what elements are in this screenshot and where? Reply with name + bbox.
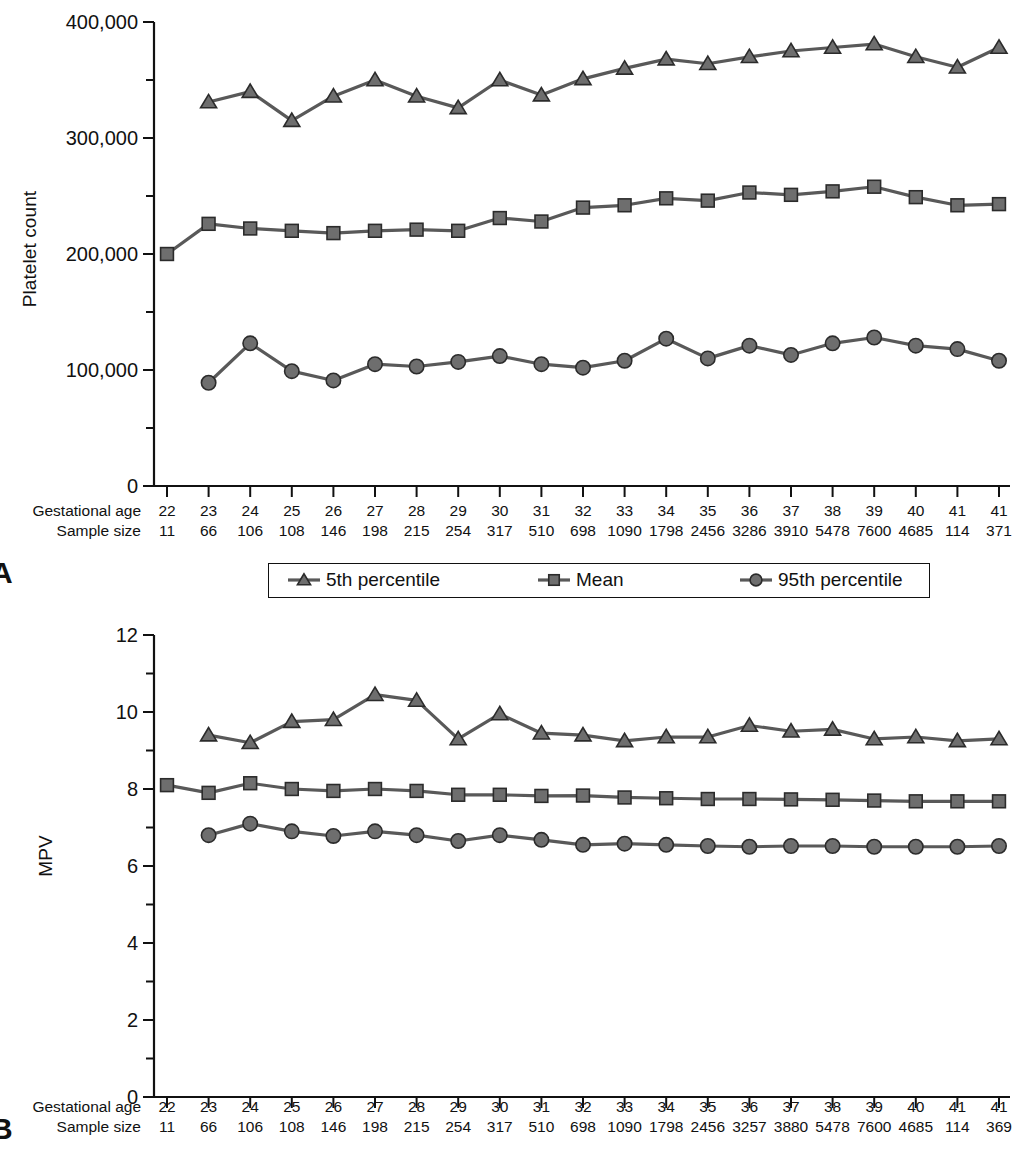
x-axis-cell-sample-size: 108 (279, 522, 305, 540)
x-axis-cell-sample-size: 1090 (607, 522, 641, 540)
data-point-circle (576, 360, 590, 374)
data-point-circle (201, 376, 215, 390)
data-point-circle (867, 840, 881, 854)
data-point-circle (409, 359, 423, 373)
data-point-square (743, 793, 756, 806)
x-axis-cell-sample-size: 5478 (815, 1118, 849, 1136)
data-point-square (285, 224, 298, 237)
panel-a-x-axis-table: Gestational age2223242526272829303132333… (0, 502, 1011, 542)
x-axis-cell-gestational-age: 35 (699, 1098, 716, 1116)
x-axis-cell-sample-size: 5478 (815, 522, 849, 540)
x-axis-cell-gestational-age: 31 (533, 1098, 550, 1116)
data-point-square (660, 192, 673, 205)
x-axis-cell-gestational-age: 41 (949, 1098, 966, 1116)
data-point-circle (750, 574, 762, 586)
data-point-square (493, 788, 506, 801)
panel-b-plot: 024681012 (0, 600, 1011, 1100)
y-tick-label: 10 (116, 701, 138, 723)
data-point-square (701, 194, 714, 207)
data-point-square (618, 199, 631, 212)
data-point-circle (659, 838, 673, 852)
data-point-square (327, 785, 340, 798)
x-axis-cell-gestational-age: 41 (990, 1098, 1007, 1116)
x-axis-row-sample-size: Sample size11661061081461982152543175106… (0, 522, 1011, 542)
data-point-triangle (741, 718, 757, 731)
series-line-square (167, 187, 999, 254)
y-tick-label: 4 (127, 932, 138, 954)
data-point-square (951, 199, 964, 212)
x-axis-cell-gestational-age: 29 (450, 1098, 467, 1116)
x-axis-cell-gestational-age: 30 (491, 1098, 508, 1116)
data-point-square (285, 783, 298, 796)
legend-label: 5th percentile (326, 569, 440, 591)
legend-label: 95th percentile (778, 569, 903, 591)
data-point-triangle (991, 40, 1007, 53)
x-axis-cell-sample-size: 106 (237, 1118, 263, 1136)
data-point-square (826, 793, 839, 806)
data-point-circle (243, 336, 257, 350)
x-axis-cell-sample-size: 3880 (774, 1118, 808, 1136)
data-point-square (161, 779, 174, 792)
x-axis-cell-gestational-age: 24 (242, 502, 259, 520)
panel-a-plot: 0100,000200,000300,000400,000 (0, 0, 1011, 500)
data-point-square (909, 191, 922, 204)
data-point-square (951, 795, 964, 808)
x-axis-cell-sample-size: 254 (445, 522, 471, 540)
x-axis-cell-gestational-age: 37 (782, 1098, 799, 1116)
x-axis-row-gestational-age: Gestational age2223242526272829303132333… (0, 502, 1011, 522)
x-axis-cell-sample-size: 2456 (691, 522, 725, 540)
x-axis-cell-gestational-age: 25 (283, 1098, 300, 1116)
x-axis-row-sample-size: Sample size11661061081461982152543175106… (0, 1118, 1011, 1138)
data-point-square (369, 783, 382, 796)
data-point-square (244, 222, 257, 235)
x-axis-cell-gestational-age: 23 (200, 1098, 217, 1116)
x-axis-cell-sample-size: 1798 (649, 522, 683, 540)
x-axis-cell-sample-size: 146 (320, 1118, 346, 1136)
x-axis-cell-gestational-age: 26 (325, 502, 342, 520)
x-axis-cell-gestational-age: 32 (574, 1098, 591, 1116)
legend-marker-square-icon (537, 568, 571, 592)
x-axis-cell-sample-size: 3257 (732, 1118, 766, 1136)
data-point-circle (867, 330, 881, 344)
x-axis-cell-gestational-age: 27 (366, 1098, 383, 1116)
x-axis-row-title-sample-size: Sample size (57, 522, 141, 540)
x-axis-row-title-gestational-age: Gestational age (32, 1098, 141, 1116)
x-axis-cell-gestational-age: 31 (533, 502, 550, 520)
data-point-triangle (492, 72, 508, 85)
data-point-square (868, 794, 881, 807)
data-point-square (369, 224, 382, 237)
x-axis-cell-sample-size: 1798 (649, 1118, 683, 1136)
data-point-square (549, 575, 559, 585)
legend-item-circle: 95th percentile (739, 568, 903, 592)
legend-marker-circle-icon (739, 568, 773, 592)
x-axis-row-title-gestational-age: Gestational age (32, 502, 141, 520)
x-axis-cell-sample-size: 4685 (899, 522, 933, 540)
data-point-triangle (367, 687, 383, 700)
data-point-circle (617, 354, 631, 368)
data-point-circle (451, 355, 465, 369)
data-point-circle (909, 338, 923, 352)
legend-item-square: Mean (537, 568, 624, 592)
x-axis-cell-sample-size: 106 (237, 522, 263, 540)
x-axis-row-gestational-age: Gestational age2223242526272829303132333… (0, 1098, 1011, 1118)
x-axis-cell-gestational-age: 29 (450, 502, 467, 520)
y-tick-label: 400,000 (66, 11, 138, 33)
x-axis-cell-gestational-age: 27 (366, 502, 383, 520)
x-axis-cell-sample-size: 198 (362, 522, 388, 540)
data-point-square (202, 786, 215, 799)
y-tick-label: 6 (127, 855, 138, 877)
data-point-circle (909, 840, 923, 854)
legend-marker-triangle-icon (287, 568, 321, 592)
data-point-circle (992, 839, 1006, 853)
x-axis-cell-sample-size: 317 (487, 522, 513, 540)
panel-a-letter: A (0, 556, 13, 590)
y-tick-label: 0 (127, 475, 138, 497)
x-axis-cell-sample-size: 108 (279, 1118, 305, 1136)
data-point-square (785, 793, 798, 806)
data-point-square (618, 791, 631, 804)
x-axis-cell-gestational-age: 41 (990, 502, 1007, 520)
data-point-circle (992, 354, 1006, 368)
x-axis-cell-gestational-age: 25 (283, 502, 300, 520)
data-point-circle (784, 839, 798, 853)
data-point-circle (659, 331, 673, 345)
